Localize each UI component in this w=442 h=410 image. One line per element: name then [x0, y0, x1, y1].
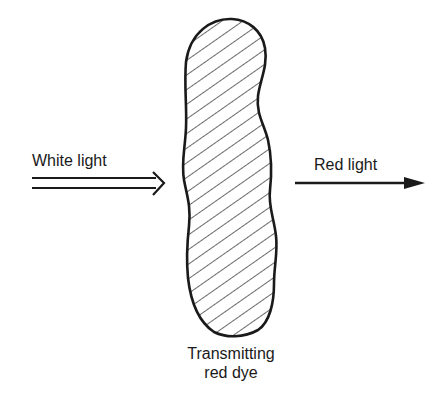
filter-caption: Transmitting red dye — [172, 344, 290, 382]
filter-caption-line1: Transmitting — [172, 344, 290, 363]
red-light-arrow-icon — [295, 177, 425, 189]
red-dye-filter — [170, 10, 290, 350]
red-light-label: Red light — [314, 157, 377, 173]
white-light-label: White light — [32, 153, 107, 169]
filter-caption-line2: red dye — [172, 363, 290, 382]
white-light-arrow-icon — [32, 172, 164, 195]
